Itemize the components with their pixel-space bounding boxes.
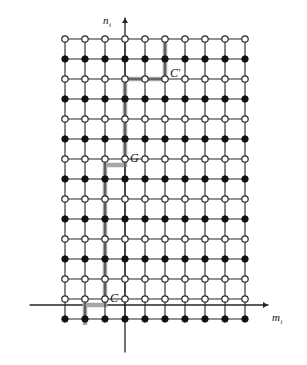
lattice-node-filled	[242, 56, 248, 62]
x-axis-label-subscript: i	[280, 318, 282, 326]
lattice-svg: mini C′GC	[0, 0, 307, 365]
lattice-node-filled	[222, 256, 228, 262]
lattice-node-open	[182, 76, 188, 82]
lattice-node-open	[62, 276, 68, 282]
lattice-node-filled	[122, 56, 128, 62]
lattice-node-filled	[62, 136, 68, 142]
lattice-node-filled	[202, 216, 208, 222]
lattice-node-filled	[162, 316, 168, 322]
lattice-node-filled	[102, 136, 108, 142]
lattice-node-open	[82, 296, 88, 302]
lattice-node-open	[182, 236, 188, 242]
lattice-node-open	[222, 236, 228, 242]
lattice-node-open	[82, 236, 88, 242]
lattice-node-open	[62, 116, 68, 122]
lattice-node-filled	[102, 316, 108, 322]
lattice-node-open	[182, 276, 188, 282]
lattice-node-open	[102, 156, 108, 162]
lattice-node-filled	[162, 256, 168, 262]
lattice-node-filled	[62, 56, 68, 62]
lattice-node-open	[182, 36, 188, 42]
lattice-node-open	[162, 236, 168, 242]
lattice-node-open	[222, 296, 228, 302]
lattice-node-open	[222, 36, 228, 42]
lattice-node-filled	[202, 96, 208, 102]
lattice-node-filled	[222, 136, 228, 142]
lattice-node-open	[82, 116, 88, 122]
lattice-node-filled	[102, 176, 108, 182]
lattice-node-open	[142, 76, 148, 82]
lattice-node-filled	[162, 176, 168, 182]
lattice-node-open	[202, 116, 208, 122]
y-axis-label-subscript: i	[109, 21, 111, 29]
lattice-node-open	[102, 296, 108, 302]
lattice-node-filled	[202, 176, 208, 182]
lattice-node-filled	[162, 216, 168, 222]
lattice-node-filled	[182, 216, 188, 222]
lattice-node-filled	[82, 56, 88, 62]
lattice-node-open	[222, 76, 228, 82]
lattice-node-open	[142, 116, 148, 122]
lattice-node-filled	[202, 136, 208, 142]
lattice-node-open	[102, 196, 108, 202]
lattice-node-open	[182, 156, 188, 162]
lattice-node-filled	[222, 56, 228, 62]
lattice-node-open	[162, 296, 168, 302]
lattice-node-filled	[62, 176, 68, 182]
lattice-node-open	[242, 76, 248, 82]
lattice-node-filled	[122, 216, 128, 222]
lattice-node-filled	[142, 216, 148, 222]
lattice-node-filled	[242, 136, 248, 142]
lattice-node-filled	[102, 56, 108, 62]
lattice-node-filled	[242, 216, 248, 222]
y-axis-label: ni	[103, 14, 111, 29]
lattice-node-open	[62, 236, 68, 242]
lattice-node-open	[142, 196, 148, 202]
lattice-node-open	[162, 276, 168, 282]
lattice-node-filled	[242, 316, 248, 322]
lattice-node-open	[162, 196, 168, 202]
lattice-node-filled	[182, 136, 188, 142]
lattice-node-filled	[122, 136, 128, 142]
lattice-node-filled	[222, 316, 228, 322]
lattice-node-filled	[202, 256, 208, 262]
lattice-node-filled	[122, 96, 128, 102]
lattice-node-filled	[142, 96, 148, 102]
lattice-node-open	[122, 76, 128, 82]
lattice-node-open	[122, 116, 128, 122]
lattice-node-filled	[182, 176, 188, 182]
lattice-node-filled	[182, 256, 188, 262]
lattice-node-filled	[242, 176, 248, 182]
lattice-node-open	[122, 156, 128, 162]
lattice-node-open	[242, 236, 248, 242]
lattice-node-open	[202, 36, 208, 42]
lattice-node-open	[122, 236, 128, 242]
lattice-node-filled	[162, 96, 168, 102]
lattice-node-filled	[242, 256, 248, 262]
lattice-node-open	[242, 116, 248, 122]
lattice-node-open	[102, 76, 108, 82]
lattice-node-filled	[62, 216, 68, 222]
lattice-node-filled	[142, 176, 148, 182]
lattice-node-open	[242, 296, 248, 302]
lattice-node-open	[222, 156, 228, 162]
lattice-node-filled	[82, 136, 88, 142]
lattice-node-filled	[182, 316, 188, 322]
lattice-node-filled	[62, 96, 68, 102]
lattice-node-filled	[82, 96, 88, 102]
lattice-node-open	[222, 276, 228, 282]
x-axis-arrowhead	[263, 302, 268, 308]
lattice-node-open	[102, 236, 108, 242]
lattice-node-filled	[162, 136, 168, 142]
lattice-node-open	[202, 76, 208, 82]
lattice-node-open	[162, 76, 168, 82]
lattice-node-open	[122, 36, 128, 42]
lattice-node-open	[122, 276, 128, 282]
lattice-node-open	[102, 36, 108, 42]
lattice-node-open	[82, 156, 88, 162]
lattice-node-filled	[242, 96, 248, 102]
lattice-node-filled	[82, 176, 88, 182]
lattice-node-open	[62, 296, 68, 302]
lattice-node-filled	[122, 176, 128, 182]
lattice-node-open	[102, 116, 108, 122]
